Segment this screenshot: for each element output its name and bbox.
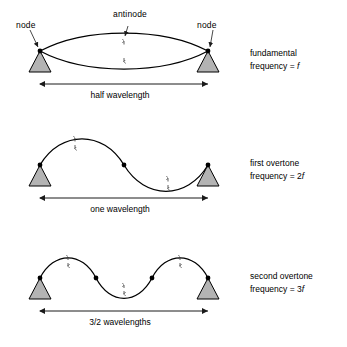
label-node-right: node	[197, 20, 217, 31]
frequency-symbol-fundamental: f	[297, 61, 299, 71]
side-label-frequency-fundamental: frequency = f	[250, 60, 299, 73]
harmonic-fundamental	[29, 26, 219, 84]
frequency-text-second-overtone: frequency =	[250, 284, 297, 294]
node-dot-interior-2-second-overtone	[150, 276, 155, 281]
harmonic-first-overtone	[29, 138, 219, 198]
leader-node-right	[210, 30, 213, 47]
label-antinode: antinode	[113, 9, 147, 20]
dimension-label-first-overtone: one wavelength	[0, 204, 240, 214]
support-left-first-overtone	[29, 163, 51, 186]
side-label-frequency-second-overtone: frequency = 3f	[250, 283, 313, 296]
support-right-first-overtone	[197, 163, 219, 186]
leader-node-left	[30, 30, 38, 47]
support-right-second-overtone	[197, 276, 219, 299]
harmonic-second-overtone	[29, 257, 219, 311]
frequency-text-first-overtone: frequency =	[250, 171, 297, 181]
side-label-name-second-overtone: second overtone	[250, 270, 313, 283]
label-node-left: node	[16, 20, 36, 31]
node-dot-interior-1-second-overtone	[94, 276, 99, 281]
node-dot-interior-first-overtone	[122, 163, 127, 168]
side-label-name-first-overtone: first overtone	[250, 157, 304, 170]
side-label-name-fundamental: fundamental	[250, 47, 299, 60]
support-left-fundamental	[29, 49, 51, 72]
standing-wave-diagram: node node antinode half wavelength one w…	[0, 0, 347, 347]
side-label-frequency-first-overtone: frequency = 2f	[250, 170, 304, 183]
leader-antinode	[125, 26, 128, 36]
side-label-fundamental: fundamental frequency = f	[250, 47, 299, 72]
dimension-label-second-overtone: 3/2 wavelengths	[0, 317, 240, 327]
side-label-first-overtone: first overtone frequency = 2f	[250, 157, 304, 182]
support-left-second-overtone	[29, 276, 51, 299]
frequency-symbol-first-overtone: f	[302, 171, 304, 181]
frequency-text-fundamental: frequency =	[250, 61, 297, 71]
side-label-second-overtone: second overtone frequency = 3f	[250, 270, 313, 295]
support-right-fundamental	[197, 49, 219, 72]
dimension-label-fundamental: half wavelength	[0, 90, 240, 100]
frequency-symbol-second-overtone: f	[302, 284, 304, 294]
